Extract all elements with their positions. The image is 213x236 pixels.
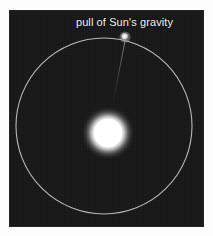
- gravity-label: pull of Sun's gravity: [9, 16, 204, 29]
- orbit-scene-svg: [9, 10, 204, 227]
- planet-icon: [121, 33, 129, 41]
- sun-core-icon: [94, 119, 123, 148]
- gravity-force-line: [112, 41, 125, 108]
- orbit-diagram: pull of Sun's gravity: [0, 0, 213, 236]
- space-field-panel: pull of Sun's gravity: [9, 10, 204, 227]
